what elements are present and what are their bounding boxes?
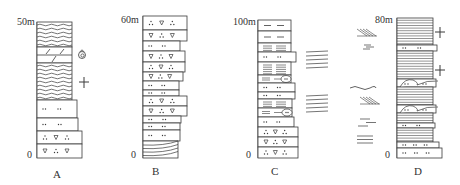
bed-cross-bedded [143,141,178,158]
bed-sandstone [397,123,435,128]
column-b-label: B [152,166,159,176]
horizontal-bedding-symbol [306,51,328,68]
bed-pebbly-sandstone [143,72,183,81]
bed-sandstone [258,52,296,62]
bed-outline [143,72,183,81]
cross-bedding-symbol [357,29,377,36]
column-b [143,16,187,158]
column-a-base-scale-label: 0 [27,150,32,160]
sand-lens [281,76,291,83]
bed-sandstone [143,123,180,130]
bed-dolomite [37,47,72,63]
column-d [350,18,445,158]
bed-laminated [258,43,291,52]
bed-outline [37,22,72,47]
bed-laminated-fine [397,18,433,45]
bed-laminated-lens [258,75,291,83]
bed-outline [143,62,185,72]
bed-outline [258,62,291,75]
horizontal-bedding-symbol [357,136,373,143]
bed-sandstone [37,100,77,118]
bed-outline [258,147,298,158]
cross-bedding-symbol [360,97,380,104]
bed-outline [143,16,187,30]
bed-sandstone [143,90,179,96]
bed-outline [37,131,82,144]
bed-outline [258,43,291,52]
column-a [37,22,89,158]
bed-outline [143,106,187,116]
column-d-label: D [414,166,422,176]
column-a-top-scale-label: 50m [17,17,35,27]
bed-pebbly-sandstone [143,62,185,72]
column-d-top-scale-label: 80m [375,15,393,25]
bed-pebbly-sandstone [258,127,298,137]
column-d-base-scale-label: 0 [385,150,390,160]
bed-laminated-fine [397,113,433,123]
column-c-label: C [271,166,278,176]
stratigraphic-columns-diagram [0,0,460,185]
horizontal-lamination-symbol [358,119,376,126]
bed-outline [143,96,187,106]
bed-sandstone [143,130,180,141]
bed-laminated [258,62,291,75]
bed-pebbly-sandstone [258,147,298,158]
bed-sandstone [258,117,294,127]
bed-sandstone [37,118,78,131]
bed-pebbly-sandstone [258,137,298,147]
bed-sandstone [143,81,179,90]
bed-sandstone [397,45,437,51]
bed-sandstone [397,148,442,158]
horizontal-lamination-symbol [363,45,374,49]
bed-pebbly-sandstone [143,16,187,30]
bed-laminated-fine [397,51,433,79]
bed-laminated-lens [258,108,292,117]
plant-fossil-cross-icon [435,65,445,76]
bed-mudstone [258,20,291,31]
bed-pebbly-sandstone [37,144,82,158]
column-a-label: A [53,169,61,179]
bed-outline [258,31,291,43]
bed-outline [397,148,442,158]
wavy-bedding-symbol [350,87,376,90]
bed-sandstone [143,116,181,123]
bed-outline [258,137,298,147]
bed-outline [258,20,291,31]
column-b-base-scale-label: 0 [131,150,136,160]
ammonite-fossil-icon [79,50,86,59]
bed-sandstone [397,142,439,148]
column-c [258,20,328,158]
bed-sandstone [143,41,180,51]
bed-wavy-shale [37,63,72,100]
column-c-top-scale-label: 100m [233,17,256,27]
column-c-base-scale-label: 0 [246,150,251,160]
bed-outline [143,51,185,62]
bed-wavy-shale [37,22,72,47]
bed-pebbly-sandstone [143,51,185,62]
bed-sandstone [258,92,295,99]
bed-sandstone [258,83,295,92]
bed-pebbly-sandstone [143,30,187,41]
bed-pebbly-sandstone [37,131,82,144]
bed-laminated [258,99,292,108]
bed-sandstone-lens [397,105,438,113]
bed-pebbly-sandstone [143,96,187,106]
bed-outline [397,51,433,79]
bed-outline [258,127,298,137]
sand-lens [282,109,292,116]
bed-outline [143,30,187,41]
column-b-top-scale-label: 60m [121,15,139,25]
bed-laminated-fine [397,87,433,105]
horizontal-bedding-symbol [306,95,328,112]
plant-fossil-cross-icon [435,27,445,38]
bed-laminated-fine [397,128,433,142]
plant-fossil-cross-icon [79,77,89,88]
bed-pebbly-sandstone [143,106,187,116]
bed-sandstone-lens [397,79,438,87]
bed-mudstone [258,31,291,43]
